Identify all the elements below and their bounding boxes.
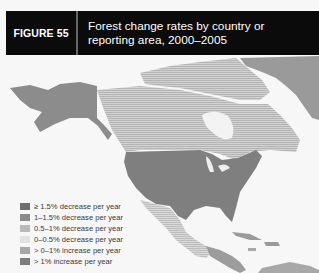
region-hispaniola: [264, 242, 280, 246]
figure-title-line-2: reporting area, 2000–2005: [88, 33, 319, 47]
legend-swatch: [20, 258, 30, 265]
legend-item: > 1% increase per year: [20, 256, 123, 267]
legend-swatch: [20, 247, 30, 254]
figure-label: FIGURE 55: [6, 11, 78, 55]
legend-swatch: [20, 203, 30, 210]
region-canada: [97, 86, 300, 160]
legend-item: 0.5–1% decrease per year: [20, 223, 123, 234]
figure-title: Forest change rates by country or report…: [78, 11, 319, 55]
region-jamaica: [248, 248, 256, 251]
region-south-america: [258, 262, 319, 273]
region-cuba: [232, 232, 262, 240]
legend-item: 1–1.5% decrease per year: [20, 212, 123, 223]
legend-label: 0.5–1% decrease per year: [34, 224, 123, 233]
region-united-states: [124, 150, 262, 222]
legend-label: ≥ 1.5% decrease per year: [34, 202, 121, 211]
legend-label: > 0–1% increase per year: [34, 246, 121, 255]
legend-label: > 1% increase per year: [34, 257, 112, 266]
legend-swatch: [20, 214, 30, 221]
region-alaska: [10, 82, 112, 140]
legend-item: > 0–1% increase per year: [20, 245, 123, 256]
map-legend: ≥ 1.5% decrease per year 1–1.5% decrease…: [20, 201, 123, 267]
figure-title-line-1: Forest change rates by country or: [88, 19, 319, 33]
legend-label: 1–1.5% decrease per year: [34, 213, 123, 222]
legend-item: ≥ 1.5% decrease per year: [20, 201, 123, 212]
region-central-america: [206, 246, 246, 273]
legend-swatch: [20, 236, 30, 243]
figure-header: FIGURE 55 Forest change rates by country…: [6, 11, 319, 55]
legend-item: 0–0.5% decrease per year: [20, 234, 123, 245]
legend-label: 0–0.5% decrease per year: [34, 235, 123, 244]
legend-swatch: [20, 225, 30, 232]
